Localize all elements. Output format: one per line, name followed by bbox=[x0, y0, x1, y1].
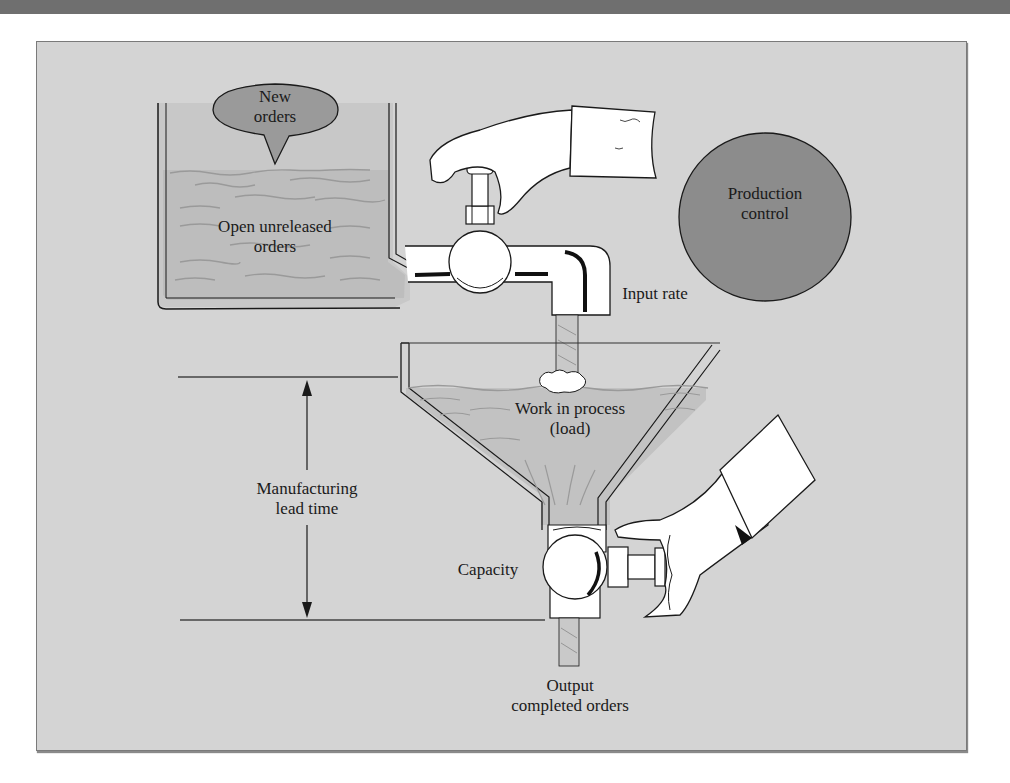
label-manufacturing-lead-time: Manufacturing lead time bbox=[237, 479, 377, 519]
label-open-unreleased-line1: Open unreleased bbox=[190, 217, 360, 237]
funnel-diagram bbox=[0, 0, 1010, 783]
label-work-in-process: Work in process (load) bbox=[490, 399, 650, 439]
label-production-control-line2: control bbox=[705, 204, 825, 224]
upper-hand bbox=[430, 106, 656, 214]
label-open-unreleased-line2: orders bbox=[190, 237, 360, 257]
label-lead-time-line2: lead time bbox=[237, 499, 377, 519]
label-lead-time-line1: Manufacturing bbox=[237, 479, 377, 499]
label-output-line2: completed orders bbox=[490, 696, 650, 716]
label-output-completed-orders: Output completed orders bbox=[490, 676, 650, 716]
output-stream bbox=[559, 618, 579, 666]
label-new-orders-line2: orders bbox=[230, 107, 320, 127]
label-open-unreleased-orders: Open unreleased orders bbox=[190, 217, 360, 257]
label-production-control-line1: Production bbox=[705, 184, 825, 204]
label-new-orders-line1: New bbox=[230, 87, 320, 107]
input-stream bbox=[556, 315, 578, 375]
label-input-rate: Input rate bbox=[600, 284, 710, 304]
label-capacity: Capacity bbox=[448, 560, 528, 580]
label-output-line1: Output bbox=[490, 676, 650, 696]
label-wip-line1: Work in process bbox=[490, 399, 650, 419]
label-new-orders: New orders bbox=[230, 87, 320, 127]
label-wip-line2: (load) bbox=[490, 419, 650, 439]
label-production-control: Production control bbox=[705, 184, 825, 224]
